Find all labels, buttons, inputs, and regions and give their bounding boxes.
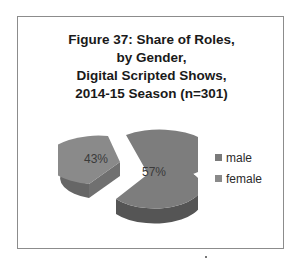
chart-frame: Figure 37: Share of Roles, by Gender, Di… [17,16,284,249]
legend-item-female: female [215,168,262,189]
pie-chart: 43% 57% [58,127,198,227]
title-line-4: 2014-15 Season (n=301) [18,85,285,103]
title-line-1: Figure 37: Share of Roles, [18,31,285,49]
chart-title: Figure 37: Share of Roles, by Gender, Di… [18,31,285,103]
legend-label-female: female [226,172,262,186]
legend-swatch-female [215,175,222,182]
legend-item-male: male [215,147,262,168]
title-line-2: by Gender, [18,49,285,67]
legend-swatch-male [215,154,222,161]
stray-mark [205,256,207,258]
legend-label-male: male [226,151,252,165]
label-male: 57% [142,165,166,179]
title-line-3: Digital Scripted Shows, [18,67,285,85]
label-female: 43% [84,152,108,166]
legend: male female [215,147,262,189]
